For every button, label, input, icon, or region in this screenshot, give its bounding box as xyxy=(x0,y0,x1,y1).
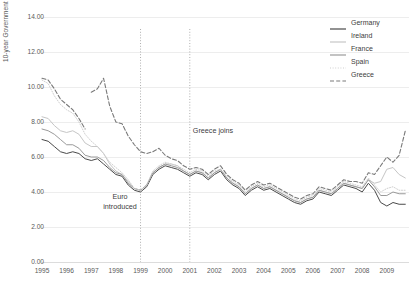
series-line-greece-early xyxy=(42,78,85,129)
legend-item-spain[interactable]: Spain xyxy=(330,55,380,68)
legend-label: Spain xyxy=(351,58,369,65)
legend-label: Ireland xyxy=(351,32,372,39)
annotation-line-1: Greece joins xyxy=(173,126,253,136)
chart-legend: GermanyIrelandFranceSpainGreece xyxy=(330,16,380,81)
legend-swatch-icon xyxy=(330,71,346,79)
legend-swatch-icon xyxy=(330,32,346,40)
legend-label: Germany xyxy=(351,19,380,26)
legend-swatch-icon xyxy=(330,58,346,66)
annotation-line-2: introduced xyxy=(80,202,160,212)
annotation-euro-introduced: Eurointroduced xyxy=(80,192,160,211)
series-line-greece xyxy=(91,78,405,199)
legend-item-france[interactable]: France xyxy=(330,42,380,55)
bond-yields-chart: 10-year Government Bond Yields, Percent … xyxy=(0,0,418,288)
legend-item-greece[interactable]: Greece xyxy=(330,68,380,81)
series-line-spain xyxy=(42,80,405,201)
annotation-line-1: Euro xyxy=(80,192,160,202)
legend-label: Greece xyxy=(351,71,374,78)
legend-item-ireland[interactable]: Ireland xyxy=(330,29,380,42)
legend-swatch-icon xyxy=(330,45,346,53)
legend-label: France xyxy=(351,45,373,52)
annotation-greece-joins: Greece joins xyxy=(173,126,253,136)
legend-swatch-icon xyxy=(330,19,346,27)
legend-item-germany[interactable]: Germany xyxy=(330,16,380,29)
